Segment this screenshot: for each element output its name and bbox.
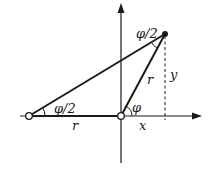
label-angle-origin: φ — [132, 100, 142, 115]
label-side-r-bottom: r — [72, 118, 79, 133]
label-coord-x: x — [139, 118, 147, 133]
label-coord-y: y — [169, 67, 178, 82]
label-side-r-slant: r — [147, 72, 154, 87]
angle-arc-top — [151, 42, 157, 48]
angle-arc-left — [43, 108, 45, 116]
x-axis-arrow-icon — [192, 113, 202, 120]
label-half-angle-left: φ/2 — [54, 101, 76, 116]
left-point — [26, 113, 33, 120]
origin-point — [118, 113, 125, 120]
y-axis — [118, 3, 125, 163]
side-hypotenuse — [29, 34, 165, 116]
label-half-angle-top: φ/2 — [136, 26, 158, 41]
y-axis-arrow-icon — [118, 3, 125, 13]
diagram-canvas: φ/2 φ/2 φ r r x y — [0, 0, 214, 174]
top-point — [162, 31, 168, 37]
